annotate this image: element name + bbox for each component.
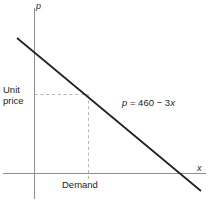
unit-price-label-line2: price (3, 95, 24, 106)
demand-label: Demand (62, 180, 98, 191)
unit-price-label: Unitprice (3, 85, 24, 106)
equation-coefficient: 3 (162, 97, 170, 108)
unit-price-label-line1: Unit (3, 84, 20, 95)
equation-variable: x (170, 97, 175, 108)
demand-curve (17, 38, 201, 191)
equation-eq: = 460 (127, 97, 156, 108)
x-axis-label: x (197, 163, 202, 173)
y-axis-label: p (36, 1, 41, 11)
demand-equation-label: p = 460 − 3x (122, 98, 175, 109)
plot-area (0, 0, 208, 201)
demand-curve-figure: p x Unitprice Demand p = 460 − 3x (0, 0, 208, 201)
